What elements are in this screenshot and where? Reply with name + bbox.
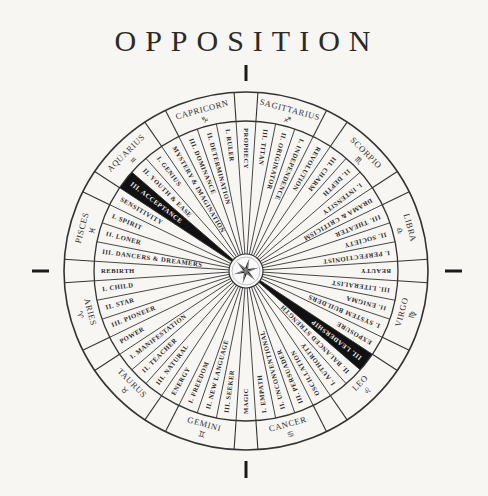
spoke-label: I. RULER [225,129,236,163]
band-divider [382,337,409,350]
sagittarius-glyph-icon: ♐ [283,115,292,126]
spoke-label: ENERGY [170,366,192,397]
sign-aries: ARIES♈ [75,297,99,326]
band-divider [64,259,94,261]
band-divider [234,92,236,121]
spoke-label: REBIRTH [101,267,135,274]
axis-mark-left [32,270,49,273]
band-divider [382,192,409,205]
virgo-glyph-icon: ♍ [407,310,418,319]
band-divider [95,172,120,188]
band-divider [64,281,94,283]
axis-mark-right [445,270,462,273]
band-divider [330,396,347,420]
spoke-label: III. LITERALIST [331,279,390,294]
band-divider [330,122,347,146]
band-divider [145,396,162,420]
libra-glyph-icon: ♎ [394,226,405,235]
capricorn-glyph-icon: ♑ [200,115,209,126]
spoke-label: BEAUTY [361,268,391,275]
sign-virgo: VIRGO♍ [393,296,418,328]
band-divider [83,337,110,350]
cancer-glyph-icon: ♋ [286,429,295,440]
axis-mark-top [245,65,248,81]
band-divider [83,192,110,205]
band-divider [372,354,397,370]
compass-star-icon [229,254,263,288]
band-divider [256,92,258,121]
band-divider [145,122,162,146]
spoke-label: II. LONER [105,230,142,246]
spoke-label: I. EMPATH [255,374,267,413]
sign-name: AQUARIUS [105,132,147,174]
band-divider [372,172,397,188]
spoke-label: PROPHECY [243,128,250,169]
band-divider [313,406,326,432]
spoke-label: POWER [118,325,145,345]
sign-pisces: PISCES♓ [73,211,98,244]
aquarius-glyph-icon: ♒ [128,155,139,166]
axis-mark-bottom [245,461,248,478]
band-divider [398,281,428,283]
astrology-wheel: PROPHECYIII. TITANII. ORIGINATORI. INDEP… [0,0,488,496]
spoke-label: I. PERFECTIONIST [322,250,390,266]
spoke-label: I. CHILD [102,281,134,292]
opposition-wheel-page: OPPOSITION PROPHECYIII. TITANII. ORIGINA… [0,0,488,496]
band-divider [256,421,258,450]
spoke-divider [251,129,294,255]
band-divider [398,259,428,261]
spoke-label: III. TITAN [258,129,270,166]
sign-capricorn: CAPRICORN♑ [174,98,230,126]
pisces-glyph-icon: ♓ [87,226,98,235]
aries-glyph-icon: ♈ [75,310,86,319]
band-divider [166,406,179,432]
taurus-glyph-icon: ♉ [119,385,130,396]
band-divider [234,421,236,450]
sign-libra: LIBRA♎ [394,213,419,244]
band-divider [95,354,120,370]
sign-sagittarius: SAGITTARIUS♐ [259,97,322,126]
spoke-label: MAGIC [242,388,249,414]
sign-aquarius: AQUARIUS♒ [105,132,147,174]
gemini-glyph-icon: ♊ [197,429,206,440]
leo-glyph-icon: ♌ [362,385,373,396]
spoke-label: I. SPIRIT [111,212,144,231]
